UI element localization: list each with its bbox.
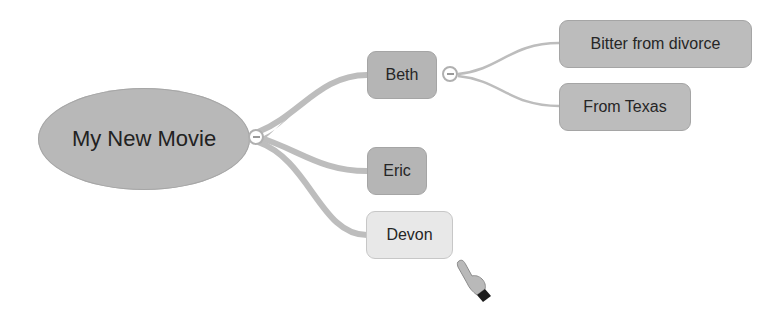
node-label: From Texas: [583, 98, 666, 116]
root-collapse-toggle[interactable]: [248, 129, 264, 145]
node-label: Beth: [386, 66, 419, 84]
root-node-label: My New Movie: [72, 126, 216, 152]
node-bitter-from-divorce[interactable]: Bitter from divorce: [559, 20, 752, 68]
node-from-texas[interactable]: From Texas: [559, 83, 691, 131]
node-label: Eric: [383, 162, 411, 180]
root-node[interactable]: My New Movie: [38, 88, 250, 190]
node-label: Devon: [386, 226, 432, 244]
node-devon[interactable]: Devon: [366, 211, 453, 259]
pointing-hand-cursor-icon: [455, 258, 495, 304]
beth-collapse-toggle[interactable]: [442, 66, 458, 82]
node-eric[interactable]: Eric: [367, 147, 427, 195]
node-label: Bitter from divorce: [591, 35, 721, 53]
node-beth[interactable]: Beth: [367, 51, 437, 99]
minus-circle-icon: [253, 136, 260, 138]
minus-circle-icon: [447, 73, 454, 75]
